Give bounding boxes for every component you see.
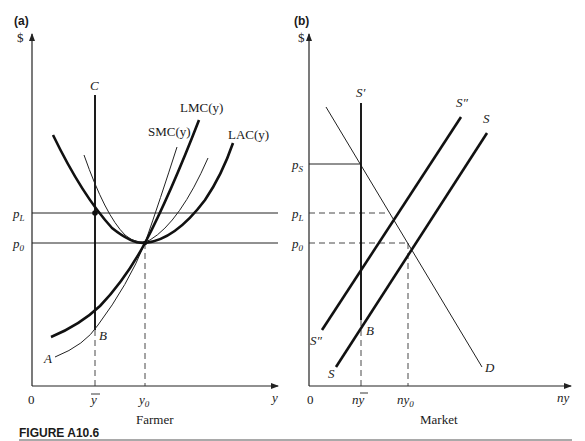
panel-b-nybar-tick: ny: [352, 392, 368, 407]
panel-a-y0-tick: y0: [137, 392, 150, 409]
panel-b-title: Market: [420, 412, 458, 427]
panel-a-B-label: B: [99, 328, 107, 343]
panel-b-ny0-tick: ny0: [397, 392, 414, 409]
panel-a-x-axis-label: y: [270, 390, 278, 405]
figure-caption: FIGURE A10.6: [19, 426, 100, 440]
panel-b-pL-tick: pL: [291, 206, 304, 223]
panel-b-label: (b): [294, 14, 309, 28]
svg-text:ny: ny: [352, 392, 365, 407]
figure-a10-6: (a) $ C LAC(y) SMC(y) LMC(y) pL p0 B A: [0, 0, 585, 441]
panel-a-title: Farmer: [136, 412, 174, 427]
panel-a-curve-SAC: [84, 155, 208, 242]
panel-a-farmer: (a) $ C LAC(y) SMC(y) LMC(y) pL p0 B A: [12, 14, 278, 427]
panel-b-p0-tick: p0: [291, 236, 304, 253]
panel-a-p0-point: [143, 241, 147, 245]
panel-a-pL-tick: pL: [12, 206, 25, 223]
panel-a-LMC-label: LMC(y): [180, 100, 223, 115]
panel-a-C-label: C: [90, 78, 99, 93]
panel-a-curve-LAC: [53, 135, 233, 243]
panel-b-S-bottom-label: S: [328, 366, 335, 381]
panel-b-S-prime-label: S′: [356, 85, 366, 100]
panel-a-ybar-tick: y: [89, 392, 100, 407]
panel-a-LAC-label: LAC(y): [228, 127, 269, 142]
panel-b-demand-curve-D: [326, 107, 482, 367]
panel-a-label: (a): [14, 14, 29, 28]
panel-b-market: (b) $ D S′ S″ S″ S S B pS pL p0 0: [291, 14, 571, 427]
panel-b-D-label: D: [484, 360, 495, 375]
panel-b-S-double-prime-top-label: S″: [456, 95, 469, 110]
panel-b-pS-tick: pS: [291, 157, 304, 174]
panel-a-pL-point: [92, 210, 98, 216]
panel-b-B-label: B: [366, 323, 374, 338]
panel-a-origin: 0: [28, 392, 35, 407]
panel-a-A-label: A: [43, 351, 52, 366]
panel-a-p0-tick: p0: [12, 236, 25, 253]
panel-a-SMC-label: SMC(y): [148, 124, 191, 139]
panel-b-y-axis-label: $: [298, 30, 305, 45]
panel-b-supply-curve-S: [336, 133, 487, 367]
panel-b-S-double-prime-bottom-label: S″: [310, 333, 323, 348]
panel-b-x-axis-label: ny: [557, 390, 570, 405]
panel-a-y-axis-label: $: [17, 30, 24, 45]
svg-text:y: y: [89, 392, 97, 407]
panel-b-S-top-label: S: [483, 111, 490, 126]
panel-b-origin: 0: [307, 392, 314, 407]
